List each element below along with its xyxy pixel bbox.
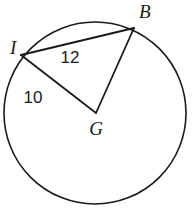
measure-label-12: 12 <box>61 48 80 67</box>
point-label-B: B <box>139 1 151 22</box>
point-label-I: I <box>9 37 18 58</box>
segment-G-B <box>96 28 134 113</box>
measure-label-10: 10 <box>24 88 43 107</box>
geometry-figure: I B G 12 10 <box>0 0 192 213</box>
geometry-canvas: I B G 12 10 <box>0 0 192 213</box>
point-label-G: G <box>89 118 103 139</box>
